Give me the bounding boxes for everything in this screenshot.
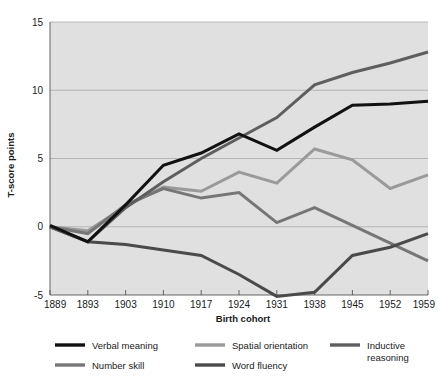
y-axis-title: T-score points [5, 133, 16, 198]
legend-label-line2: reasoning [367, 352, 409, 363]
y-tick-label: 0 [37, 221, 43, 232]
y-tick-label: 5 [37, 153, 43, 164]
x-tick-label: 1959 [413, 299, 436, 310]
y-tick-label: 15 [32, 17, 44, 28]
x-tick-label: 1952 [379, 299, 402, 310]
x-tick-label: 1889 [44, 299, 67, 310]
x-axis-title: Birth cohort [216, 313, 271, 324]
x-tick-label: 1924 [228, 299, 251, 310]
y-tick-label: -5 [34, 290, 43, 301]
x-tick-label: 1893 [77, 299, 100, 310]
x-tick-label: 1938 [303, 299, 326, 310]
x-tick-label: 1917 [190, 299, 213, 310]
legend-label: Verbal meaning [92, 340, 158, 351]
y-tick-label: 10 [32, 85, 44, 96]
legend-label: Spatial orientation [232, 340, 308, 351]
legend-label: Word fluency [232, 360, 288, 371]
x-tick-label: 1903 [114, 299, 137, 310]
chart-figure: -5051015 1889189319031910191719241931193… [0, 0, 438, 389]
x-tick-label: 1931 [266, 299, 289, 310]
legend-label: Number skill [92, 360, 144, 371]
x-tick-label: 1910 [152, 299, 175, 310]
legend-label: Inductive [367, 340, 405, 351]
x-tick-label: 1945 [341, 299, 364, 310]
chart-svg: -5051015 1889189319031910191719241931193… [0, 0, 438, 389]
